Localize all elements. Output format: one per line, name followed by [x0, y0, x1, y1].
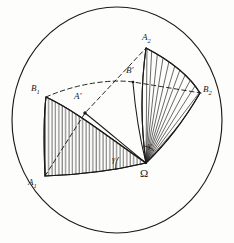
vertex-label-B1: B1	[31, 84, 40, 95]
angle-label-gamma-left: γ	[112, 156, 115, 164]
vertex-label-A2: A2	[142, 33, 151, 44]
vertex-label-B2: B2	[203, 85, 212, 96]
vertex-label-omega: Ω	[140, 168, 148, 179]
figure-container: A1 A2 B1 B2 A' B' Ω γ γ	[0, 0, 234, 243]
vertex-label-B-prime: B'	[126, 66, 133, 75]
vertex-dot-B-prime	[132, 81, 135, 84]
vertex-dot-A-prime	[83, 111, 86, 114]
vertex-label-A-prime: A'	[74, 92, 81, 101]
geometry-figure	[0, 0, 234, 243]
sphere-outline	[12, 7, 222, 233]
angle-label-gamma-right: γ	[148, 142, 151, 150]
dashed-arc-B1-Bprime-B2	[46, 81, 201, 97]
vertex-label-A1: A1	[28, 178, 37, 189]
